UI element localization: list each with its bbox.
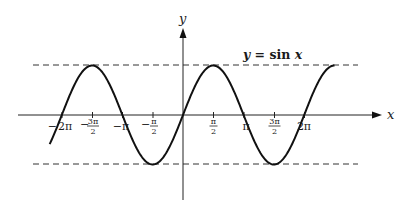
tick-label-3pi-2-den: 2 [272, 127, 277, 136]
curve-label: y = sin x [242, 47, 303, 62]
sine-graph: x y y = sin x −2π − 3π 2 −π − π [0, 0, 411, 206]
tick-label-neg-2pi: −2π [48, 120, 72, 133]
y-axis-arrow-icon [180, 28, 187, 38]
x-axis-label: x [387, 107, 395, 122]
tick-label-pi-2-den: 2 [211, 127, 216, 136]
tick-label-2pi: 2π [297, 120, 311, 133]
tick-label-pi: π [242, 120, 249, 133]
tick-label-neg-3pi-2-num: 3π [88, 117, 98, 126]
tick-label-3pi-2-num: 3π [269, 117, 279, 126]
tick-label-neg-pi-2-den: 2 [151, 127, 156, 136]
y-axis-label: y [178, 11, 187, 26]
tick-label-neg-pi: −π [113, 120, 129, 133]
x-axis-arrow-icon [372, 112, 382, 119]
tick-label-pi-2-num: π [211, 117, 216, 126]
tick-label-neg-pi-2-num: π [151, 117, 156, 126]
tick-label-neg-pi-2-sign: − [141, 118, 150, 131]
tick-label-neg-3pi-2-den: 2 [90, 127, 95, 136]
